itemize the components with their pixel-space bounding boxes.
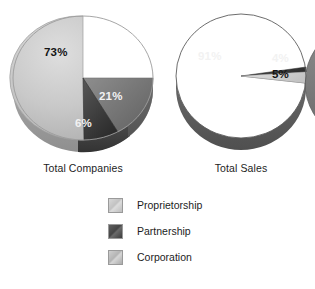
pie-depth-right — [176, 76, 306, 150]
legend-label-corporation: Corporation — [137, 251, 192, 263]
figure-root: 73% 21% 6% Total Companies — [0, 0, 315, 289]
pie-chart-total-sales: 91% 4% 5% Total Sales — [172, 4, 310, 179]
pie-total-sales-svg — [172, 4, 310, 156]
pie-caption-total-sales: Total Sales — [172, 162, 310, 174]
pie-chart-total-companies: 73% 21% 6% Total Companies — [8, 4, 158, 179]
legend-swatch-corporation — [108, 250, 123, 265]
legend-item-partnership: Partnership — [108, 218, 308, 244]
legend-swatch-proprietorship — [108, 198, 123, 213]
legend-label-proprietorship: Proprietorship — [137, 199, 202, 211]
legend: Proprietorship Partnership Corporation — [108, 192, 308, 270]
legend-swatch-partnership — [108, 224, 123, 239]
legend-label-partnership: Partnership — [137, 225, 191, 237]
legend-item-corporation: Corporation — [108, 244, 308, 270]
pie-total-companies-svg — [8, 4, 158, 156]
legend-item-proprietorship: Proprietorship — [108, 192, 308, 218]
pie-caption-total-companies: Total Companies — [8, 162, 158, 174]
